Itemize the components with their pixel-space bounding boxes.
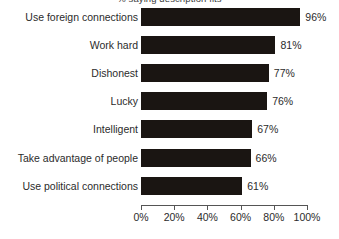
x-axis-tick-label: 0% [133,211,148,223]
category-label: Work hard [90,36,138,54]
bar [141,92,267,110]
bar-row: Intelligent67% [141,120,307,138]
bar-row: Work hard81% [141,36,307,54]
category-label: Take advantage of people [18,149,138,167]
x-axis-tick [207,205,208,210]
chart-title: % saying description fits [0,0,339,4]
x-axis-tick [141,205,142,210]
value-label: 67% [257,120,278,138]
category-label: Dishonest [91,64,138,82]
x-axis-tick-label: 20% [164,211,185,223]
value-label: 66% [256,149,277,167]
bar [141,149,251,167]
x-axis-line [141,205,308,206]
x-axis-tick-label: 100% [294,211,321,223]
category-label: Lucky [111,92,138,110]
x-axis-tick-label: 60% [230,211,251,223]
bar [141,8,300,26]
category-label: Use political connections [22,177,138,195]
bar [141,64,269,82]
bar [141,177,242,195]
bar [141,36,275,54]
value-label: 61% [247,177,268,195]
bar-row: Dishonest77% [141,64,307,82]
plot-area: Use foreign connections96%Work hard81%Di… [141,8,307,205]
category-label: Use foreign connections [25,8,138,26]
x-axis-tick [241,205,242,210]
bar-row: Take advantage of people66% [141,149,307,167]
x-axis-tick [307,205,308,210]
x-axis-tick-label: 80% [263,211,284,223]
bar-row: Lucky76% [141,92,307,110]
bar [141,120,252,138]
x-axis-tick [174,205,175,210]
bar-chart: % saying description fits Use foreign co… [0,0,339,239]
x-axis-tick [274,205,275,210]
bar-row: Use foreign connections96% [141,8,307,26]
value-label: 96% [305,8,326,26]
category-label: Intelligent [93,120,138,138]
bar-row: Use political connections61% [141,177,307,195]
value-label: 81% [280,36,301,54]
x-axis-tick-label: 40% [197,211,218,223]
value-label: 76% [272,92,293,110]
value-label: 77% [274,64,295,82]
